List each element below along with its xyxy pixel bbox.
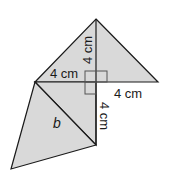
triangle-net-diagram: 4 cm 4 cm 4 cm 4 cm b xyxy=(0,0,169,183)
label-bottom-vertical: 4 cm xyxy=(97,102,112,130)
label-top-vertical: 4 cm xyxy=(80,36,95,64)
label-diagonal-b: b xyxy=(53,115,61,131)
label-left-horizontal: 4 cm xyxy=(50,66,78,81)
label-right-horizontal: 4 cm xyxy=(114,86,142,101)
